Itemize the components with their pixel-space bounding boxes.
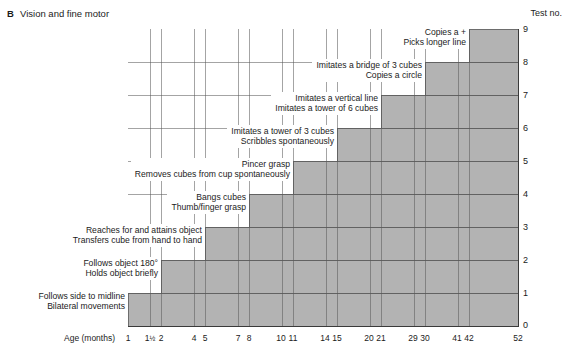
- gridline-v-42: [469, 29, 470, 327]
- y-tick-5: 5: [523, 157, 528, 166]
- milestone-3-line1: Reaches for and attains object: [73, 225, 202, 235]
- milestone-label-2: Follows object 180° Holds object briefly: [79, 257, 161, 280]
- step-test-3: [205, 227, 518, 260]
- milestone-label-9: Copies a + Picks longer line: [399, 26, 469, 49]
- milestone-6-line1: Imitates a tower of 3 cubes: [231, 126, 334, 136]
- y-tick-0: 0: [523, 321, 528, 330]
- milestone-label-6: Imitates a tower of 3 cubes Scribbles sp…: [227, 125, 337, 148]
- step-test-4: [249, 194, 518, 227]
- x-tick-5: 5: [198, 334, 212, 343]
- milestone-6-line2: Scribbles spontaneously: [231, 136, 334, 146]
- gridline-v-11: [293, 29, 294, 327]
- milestone-label-4: Bangs cubes Thumb/finger grasp: [167, 191, 249, 214]
- milestone-4-line1: Bangs cubes: [171, 192, 246, 202]
- y-axis-line: [518, 29, 519, 327]
- milestone-label-8: Imitates a bridge of 3 cubes Copies a ci…: [312, 59, 425, 82]
- milestone-8-line1: Imitates a bridge of 3 cubes: [316, 60, 422, 70]
- y-tick-8: 8: [523, 58, 528, 67]
- gridline-h-1: [128, 293, 518, 294]
- gridline-v-41: [458, 29, 459, 327]
- x-tick-42: 42: [462, 334, 476, 343]
- x-tick-8: 8: [242, 334, 256, 343]
- milestone-label-7: Imitates a vertical line Imitates a towe…: [271, 92, 381, 115]
- milestone-9-line1: Copies a +: [403, 27, 466, 37]
- y-axis-title: Test no.: [530, 8, 562, 18]
- step-test-6: [337, 128, 518, 161]
- x-tick-15: 15: [330, 334, 344, 343]
- milestone-label-5: Pincer grasp Removes cubes from cup spon…: [131, 158, 293, 181]
- milestone-3-line2: Transfers cube from hand to hand: [73, 235, 202, 245]
- y-tick-6: 6: [523, 124, 528, 133]
- milestone-2-line2: Holds object briefly: [83, 268, 158, 278]
- x-tick-30: 30: [418, 334, 432, 343]
- gridline-h-2: [128, 260, 518, 261]
- milestone-label-3: Reaches for and attains object Transfers…: [69, 224, 205, 247]
- milestone-8-line2: Copies a circle: [316, 70, 422, 80]
- milestone-7-line2: Imitates a tower of 6 cubes: [275, 103, 378, 113]
- milestone-label-1: Follows side to midline Bilateral moveme…: [35, 290, 128, 313]
- milestone-4-line2: Thumb/finger grasp: [171, 202, 246, 212]
- step-test-1: [128, 293, 518, 327]
- x-tick-11: 11: [286, 334, 300, 343]
- y-tick-7: 7: [523, 91, 528, 100]
- gridline-v-30: [425, 29, 426, 327]
- y-tick-3: 3: [523, 223, 528, 232]
- x-axis-line: [128, 326, 519, 327]
- x-tick-52: 52: [511, 334, 525, 343]
- milestone-5-line1: Pincer grasp: [135, 159, 290, 169]
- y-tick-1: 1: [523, 289, 528, 298]
- x-axis-title: Age (months): [64, 334, 115, 343]
- step-test-7: [381, 95, 518, 128]
- milestone-1-line1: Follows side to midline: [39, 291, 125, 301]
- step-test-9: [469, 29, 518, 62]
- milestone-1-line2: Bilateral movements: [39, 301, 125, 311]
- milestone-5-line2: Removes cubes from cup spontaneously: [135, 169, 290, 179]
- y-tick-4: 4: [523, 190, 528, 199]
- page-title: Vision and fine motor: [20, 8, 109, 19]
- x-tick-21: 21: [374, 334, 388, 343]
- y-tick-2: 2: [523, 256, 528, 265]
- y-tick-9: 9: [523, 25, 528, 34]
- x-tick-1: 1: [121, 334, 135, 343]
- figure-panel: B Vision and fine motor Test no.: [0, 0, 566, 354]
- x-tick-2: 2: [154, 334, 168, 343]
- milestone-2-line1: Follows object 180°: [83, 258, 158, 268]
- step-test-2: [161, 260, 518, 293]
- step-test-8: [425, 62, 518, 95]
- panel-letter: B: [7, 8, 14, 19]
- milestone-7-line1: Imitates a vertical line: [275, 93, 378, 103]
- milestone-9-line2: Picks longer line: [403, 37, 466, 47]
